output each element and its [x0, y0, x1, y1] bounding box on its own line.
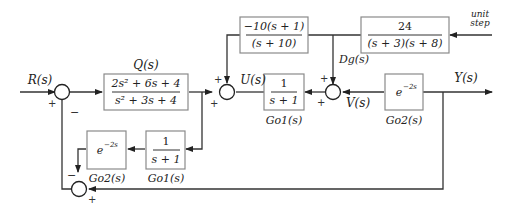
summing-junction-s2: [220, 85, 235, 100]
go1-denominator: s + 1: [270, 94, 299, 107]
s4-sign-plus: +: [88, 194, 96, 205]
q-label: Q(s): [133, 58, 159, 72]
unit-step-line2: step: [470, 18, 490, 28]
s3-sign-top: +: [320, 73, 328, 84]
go1-model-denominator: s + 1: [152, 153, 181, 166]
s4-sign-minus: −: [67, 169, 76, 182]
s2-sign-top: +: [214, 74, 222, 85]
go2-label: Go2(s): [386, 114, 423, 127]
s2-sign-left: +: [210, 98, 218, 109]
signal-u: U(s): [240, 73, 266, 87]
q-numerator: 2s² + 6s + 4: [110, 77, 180, 90]
summing-junction-s3: [326, 85, 341, 100]
block-go2-model: [87, 131, 126, 169]
go2-model-label: Go2(s): [89, 172, 126, 185]
go1-numerator: 1: [281, 77, 288, 90]
summing-junction-s4: [72, 182, 87, 197]
signal-v: V(s): [346, 96, 371, 110]
block-diagram: 2s² + 6s + 4 s² + 3s + 4 Q(s) −10(s + 1)…: [0, 0, 512, 213]
s3-sign-bottom: +: [317, 97, 325, 108]
summing-junction-s1: [55, 85, 70, 100]
d-numerator: 24: [398, 20, 412, 33]
go2-base: e: [396, 86, 403, 99]
go2-exponent: −2s: [403, 83, 417, 91]
signal-y: Y(s): [454, 71, 478, 85]
d-denominator: (s + 3)(s + 8): [368, 37, 443, 50]
signal-r: R(s): [27, 73, 53, 87]
k-denominator: (s + 10): [252, 37, 296, 50]
go1-model-numerator: 1: [163, 135, 170, 148]
go2-model-base: e: [97, 144, 104, 157]
wire-go2m-s4: [78, 149, 86, 172]
go2-model-exponent: −2s: [104, 141, 118, 149]
s1-sign-plus: +: [48, 98, 56, 109]
s1-sign-minus: −: [70, 106, 79, 119]
go1-label: Go1(s): [266, 114, 303, 127]
k-numerator: −10(s + 1): [244, 20, 305, 33]
signal-dg: Dg(s): [338, 53, 369, 66]
block-go2-main: [385, 74, 423, 110]
go1-model-label: Go1(s): [148, 172, 185, 185]
q-denominator: s² + 3s + 4: [115, 94, 177, 107]
